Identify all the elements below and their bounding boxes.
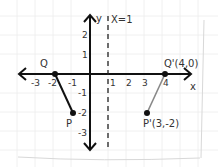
x-tick: 3 [142,78,148,88]
x-tick: 1 [110,78,116,88]
x-tick: 2 [126,78,132,88]
paper-right-edge [201,20,204,158]
point-q-prime [162,71,168,77]
point-q-prime-label: Q'(4,0) [164,58,198,69]
point-q [52,71,58,77]
point-p-label: P [66,118,72,129]
y-tick: -1 [78,88,87,98]
x-tick: -2 [48,78,57,88]
y-tick: -2 [78,108,87,118]
x-tick: -3 [31,78,40,88]
graph-paper-diagram: x -3 -2 -1 1 2 3 4 y 2 1 -1 -2 -3 X=1 [0,0,218,167]
point-q-label: Q [40,58,48,69]
x-axis-label: x [190,81,196,92]
paper-bottom-edge [18,157,200,160]
y-axis-label: y [96,13,102,24]
reflection-line-label: X=1 [111,14,133,25]
y-axis: y 2 1 -1 -2 -3 [78,13,102,150]
coordinate-plane: x -3 -2 -1 1 2 3 4 y 2 1 -1 -2 -3 X=1 [0,0,218,167]
point-p-prime-label: P'(3,-2) [143,118,179,129]
y-tick: 1 [82,50,88,60]
y-tick: -3 [78,128,87,138]
y-tick: 2 [82,30,88,40]
x-tick: -1 [68,78,77,88]
x-tick: 4 [163,78,169,88]
point-p [70,110,76,116]
point-p-prime [144,110,150,116]
